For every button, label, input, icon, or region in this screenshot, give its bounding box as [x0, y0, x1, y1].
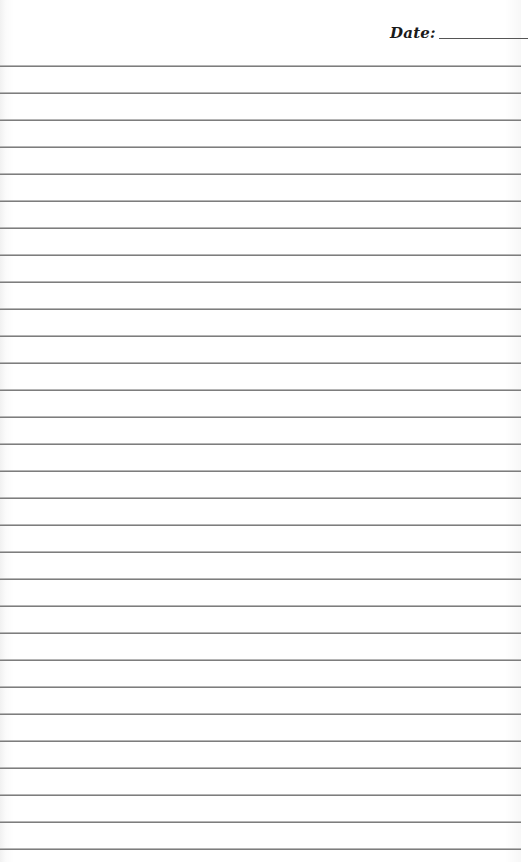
writing-line [0, 92, 521, 94]
writing-line [0, 470, 521, 472]
writing-line [0, 740, 521, 742]
writing-line [0, 119, 521, 121]
date-label: Date: [390, 24, 436, 42]
writing-line [0, 686, 521, 688]
writing-line [0, 497, 521, 499]
writing-line [0, 443, 521, 445]
writing-line [0, 551, 521, 553]
writing-line [0, 659, 521, 661]
writing-line [0, 713, 521, 715]
writing-line [0, 254, 521, 256]
writing-line [0, 200, 521, 202]
writing-line [0, 821, 521, 823]
writing-line [0, 767, 521, 769]
writing-line [0, 524, 521, 526]
writing-line [0, 389, 521, 391]
writing-line [0, 308, 521, 310]
writing-line [0, 848, 521, 850]
writing-line [0, 794, 521, 796]
writing-line [0, 362, 521, 364]
writing-line [0, 416, 521, 418]
writing-line [0, 146, 521, 148]
date-header: Date: [390, 20, 528, 42]
writing-line [0, 227, 521, 229]
writing-line [0, 335, 521, 337]
writing-line [0, 632, 521, 634]
writing-line [0, 578, 521, 580]
writing-line [0, 281, 521, 283]
writing-line [0, 605, 521, 607]
date-field[interactable] [439, 22, 528, 39]
writing-line [0, 173, 521, 175]
writing-line [0, 65, 521, 67]
